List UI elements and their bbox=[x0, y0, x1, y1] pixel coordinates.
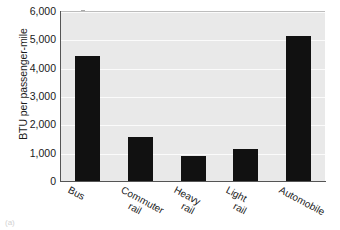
bar-chart-figure: BTU per passenger-mile 01,0002,0003,0004… bbox=[0, 0, 340, 230]
y-tick-label: 5,000 bbox=[24, 34, 56, 44]
y-tick-label: 2,000 bbox=[24, 119, 56, 129]
bar bbox=[181, 156, 206, 181]
bar bbox=[75, 56, 100, 181]
bar bbox=[286, 36, 311, 181]
x-tick-label: Bus bbox=[66, 185, 86, 202]
plot-area bbox=[61, 11, 325, 181]
x-tick-label: Heavyrail bbox=[167, 185, 202, 217]
y-tick-label: 6,000 bbox=[24, 6, 56, 16]
x-axis-tick-labels: BusCommuterrailHeavyrailLightrailAutomob… bbox=[61, 181, 325, 230]
y-tick-label: 3,000 bbox=[24, 91, 56, 101]
bar bbox=[128, 137, 153, 181]
bar bbox=[233, 149, 258, 181]
y-tick-label: 0 bbox=[24, 176, 56, 186]
gridline bbox=[61, 12, 325, 13]
y-tick-label: 4,000 bbox=[24, 63, 56, 73]
x-tick-label: Lightrail bbox=[219, 185, 253, 216]
x-tick-label: Automobile bbox=[277, 185, 326, 218]
y-tick-label: 1,000 bbox=[24, 148, 56, 158]
x-tick-label: Commuterrail bbox=[114, 185, 165, 225]
y-axis-line bbox=[60, 11, 61, 182]
y-axis-tick-labels: 01,0002,0003,0004,0005,0006,000 bbox=[24, 0, 56, 230]
figure-corner-mark: (a) bbox=[5, 218, 15, 227]
